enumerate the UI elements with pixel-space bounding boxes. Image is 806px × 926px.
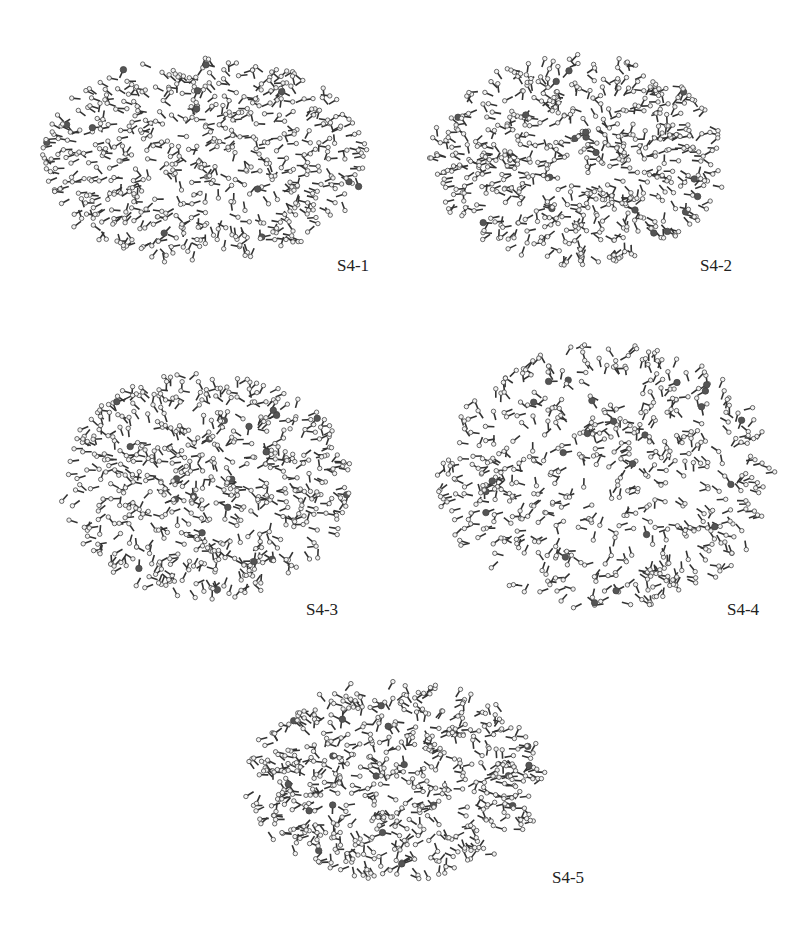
- molecule-panel-s4-1: [22, 40, 382, 280]
- molecule-structure-image: [420, 320, 790, 630]
- molecule-panel-s4-4: [420, 320, 790, 630]
- panel-label: S4-4: [727, 600, 759, 620]
- molecule-panel-s4-3: [45, 355, 365, 615]
- molecule-panel-s4-2: [415, 40, 740, 280]
- molecule-panel-s4-5: [230, 665, 560, 895]
- molecule-structure-image: [415, 40, 740, 280]
- molecule-structure-image: [22, 40, 382, 280]
- molecule-structure-image: [230, 665, 560, 895]
- panel-label: S4-5: [552, 868, 584, 888]
- panel-label: S4-2: [700, 256, 732, 276]
- panel-label: S4-1: [337, 256, 369, 276]
- molecule-structure-image: [45, 355, 365, 615]
- panel-label: S4-3: [306, 600, 338, 620]
